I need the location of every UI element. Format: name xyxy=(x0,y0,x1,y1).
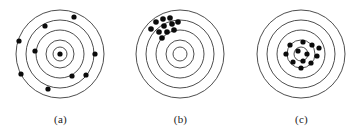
target-panel-c: (c) xyxy=(241,0,362,130)
shot-marker xyxy=(295,48,300,53)
shot-marker xyxy=(283,51,288,56)
shot-marker xyxy=(171,27,177,33)
caption-a: (a) xyxy=(0,113,121,125)
shot-marker xyxy=(175,19,181,25)
shot-marker xyxy=(309,42,314,47)
shot-marker xyxy=(32,48,37,53)
shot-marker xyxy=(16,38,21,43)
target-ring-5 xyxy=(173,47,187,61)
shot-marker xyxy=(298,65,303,70)
target-ring-1 xyxy=(257,10,345,98)
shot-marker xyxy=(92,51,97,56)
shot-marker xyxy=(71,14,76,19)
caption-c: (c) xyxy=(241,113,362,125)
shot-marker xyxy=(161,23,167,29)
shot-marker xyxy=(164,29,170,35)
shot-marker xyxy=(287,42,292,47)
target-diagram-a xyxy=(0,4,121,104)
shot-marker xyxy=(18,71,23,76)
shot-marker xyxy=(156,29,162,35)
target-ring-4 xyxy=(166,40,194,68)
shot-marker xyxy=(153,19,159,25)
target-panel-b: (b) xyxy=(120,0,241,130)
shot-marker xyxy=(83,72,88,77)
shot-marker xyxy=(304,51,309,56)
shot-marker xyxy=(148,26,154,32)
shot-marker xyxy=(42,23,47,28)
shot-marker xyxy=(160,16,166,22)
shot-marker xyxy=(300,58,305,63)
shot-marker xyxy=(169,21,175,27)
shot-marker xyxy=(167,15,173,21)
target-diagram-b xyxy=(120,4,241,104)
shots-a xyxy=(16,14,97,91)
shot-marker xyxy=(69,73,74,78)
shot-marker xyxy=(316,45,321,50)
shot-marker xyxy=(57,51,62,56)
shot-marker xyxy=(308,60,313,65)
shot-marker xyxy=(159,35,165,41)
shot-marker xyxy=(300,39,305,44)
shot-marker xyxy=(45,86,50,91)
shot-marker xyxy=(290,59,295,64)
shots-c xyxy=(283,39,321,70)
accuracy-precision-figure: (a) (b) (c) xyxy=(0,0,362,130)
target-panel-a: (a) xyxy=(0,0,121,130)
target-diagram-c xyxy=(241,4,362,104)
shot-marker xyxy=(314,53,319,58)
caption-b: (b) xyxy=(120,113,241,125)
rings-c xyxy=(257,10,345,98)
